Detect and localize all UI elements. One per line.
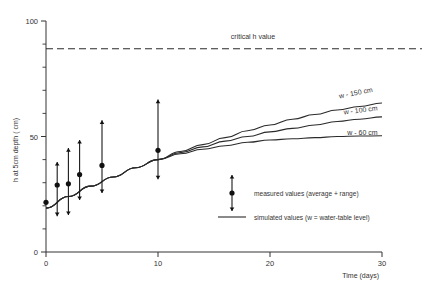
errorbar-arrowhead xyxy=(66,148,71,152)
x-tick-label: 30 xyxy=(378,259,386,268)
errorbar-arrowhead xyxy=(77,196,82,200)
chart-legend: measured values (average + range)simulat… xyxy=(218,175,370,222)
y-axis-title: h at 5cm depth ( cm) xyxy=(12,118,20,182)
legend-label-simulated: simulated values (w = water-table level) xyxy=(254,214,370,222)
data-point xyxy=(99,163,104,168)
curve-label-w60: w - 60 cm xyxy=(346,129,378,136)
y-tick-label: 0 xyxy=(34,248,38,257)
x-axis-title: Time (days) xyxy=(342,272,379,280)
y-tick-label: 100 xyxy=(25,17,38,26)
errorbar-arrowhead xyxy=(100,120,105,124)
errorbar-arrowhead xyxy=(100,189,105,193)
errorbar-arrowhead xyxy=(77,140,82,144)
legend-dot-marker xyxy=(229,190,234,195)
errorbar-arrowhead xyxy=(55,162,60,166)
errorbar-arrowhead xyxy=(156,176,161,180)
axis-titles: h at 5cm depth ( cm)Time (days) xyxy=(12,118,379,280)
legend-label-measured: measured values (average + range) xyxy=(254,190,359,198)
errorbar-arrowhead xyxy=(230,175,235,179)
curve-label-w150: w - 150 cm xyxy=(337,86,373,100)
errorbar-arrowhead xyxy=(55,213,60,217)
measured-errorbars xyxy=(55,100,160,217)
y-axis: 050100 xyxy=(25,17,46,257)
chart-figure: 050100 0102030 critical h valuew - 150 c… xyxy=(0,0,427,298)
x-tick-label: 10 xyxy=(154,259,162,268)
data-point xyxy=(55,182,60,187)
x-tick-label: 20 xyxy=(266,259,274,268)
curve-w-60-cm xyxy=(46,136,382,208)
x-tick-label: 0 xyxy=(44,259,48,268)
data-point xyxy=(77,172,82,177)
errorbar-arrowhead xyxy=(230,207,235,211)
critical-h-value: critical h value xyxy=(231,33,275,40)
y-tick-label: 50 xyxy=(30,133,38,142)
chart-canvas: 050100 0102030 critical h valuew - 150 c… xyxy=(0,0,427,298)
data-point xyxy=(66,181,71,186)
curve-label-w100: w - 100 cm xyxy=(342,104,378,115)
data-point xyxy=(155,148,160,153)
errorbar-arrowhead xyxy=(156,100,161,104)
errorbar-arrowhead xyxy=(66,211,71,215)
data-point xyxy=(43,200,48,205)
x-axis: 0102030 xyxy=(44,252,386,268)
